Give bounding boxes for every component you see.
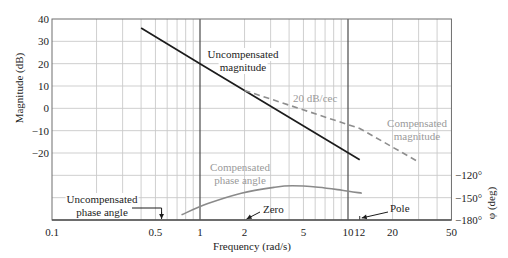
annotation-line: phase angle	[75, 206, 129, 219]
y-tick-label-left: 40	[38, 13, 49, 25]
y-tick-label-left: 20	[38, 58, 49, 70]
y-tick-label-left: −10	[32, 125, 49, 137]
annotation-line: Uncompensated	[66, 193, 139, 206]
annotation-line: magnitude	[387, 130, 447, 143]
bode-plot-figure: Magnitude (dB) φ (deg) Frequency (rad/s)…	[0, 0, 508, 258]
annotation-compensated-magnitude: Compensated magnitude	[387, 117, 447, 143]
x-tick-label: 0.1	[45, 226, 59, 238]
annotation-uncompensated-phase-angle: Uncompensated phase angle	[66, 193, 139, 219]
annotation-slope: 20 dB/cec	[293, 92, 337, 105]
y-axis-label-left: Magnitude (dB)	[13, 53, 26, 124]
x-tick-label: 50	[446, 226, 457, 238]
x-tick-label: 20	[387, 226, 398, 238]
annotation-line: Compensated	[387, 117, 447, 130]
y-tick-label-left: 10	[38, 80, 49, 92]
y-tick-label-right: −120°	[455, 169, 482, 181]
x-tick-label: 1	[197, 226, 203, 238]
annotation-line: Compensated	[210, 161, 270, 174]
pole-arrow-head	[362, 215, 367, 220]
x-axis-label: Frequency (rad/s)	[213, 240, 291, 253]
y-tick-label-right: −150°	[455, 192, 482, 204]
annotation-line: Pole	[390, 202, 410, 215]
y-axis-label-right: φ (deg)	[485, 187, 498, 219]
annotation-uncompensated-magnitude: Uncompensated magnitude	[207, 48, 280, 74]
annotation-zero: Zero	[263, 203, 284, 216]
x-tick-label: 10	[343, 226, 354, 238]
x-tick-label: 12	[354, 226, 365, 238]
annotation-line: phase angle	[210, 174, 270, 187]
x-tick-label: 5	[301, 226, 307, 238]
annotation-line: magnitude	[219, 61, 267, 74]
x-tick-label: 2	[242, 226, 248, 238]
annotation-line: 20 dB/cec	[293, 92, 337, 105]
annotation-line: Zero	[263, 203, 284, 216]
annotation-pole: Pole	[390, 202, 410, 215]
annotation-compensated-phase-angle: Compensated phase angle	[210, 161, 270, 187]
y-tick-label-left: 30	[38, 35, 49, 47]
x-tick-label: 0.5	[149, 226, 163, 238]
annotation-line: Uncompensated	[207, 48, 280, 61]
y-tick-label-left: −20	[32, 147, 49, 159]
uncompensated-phase-arrow-tip-head	[159, 214, 164, 219]
y-tick-label-left: 0	[44, 102, 50, 114]
y-tick-label-right: −180°	[455, 214, 482, 226]
